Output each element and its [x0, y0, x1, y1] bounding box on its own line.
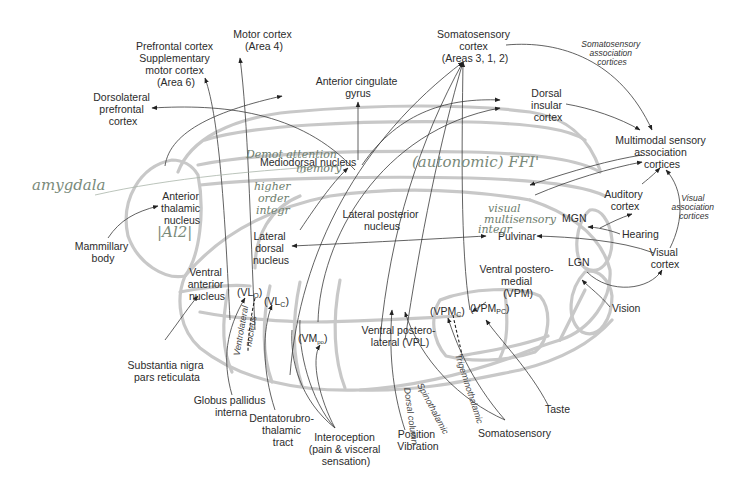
label-hearing: Hearing [622, 228, 659, 240]
label-dorsolateral-prefrontal: Dorsolateral prefrontal cortex [93, 91, 153, 127]
label-anterior-cingulate: Anterior cingulate gyrus [316, 75, 401, 99]
label-interoception: Interoception (pain & visceral sensation… [309, 431, 384, 467]
label-ventrolateral-nucleus: Ventrolateral nucleus [232, 302, 261, 358]
label-prefrontal-cortex: Prefrontal cortex Supplementary motor co… [136, 40, 216, 88]
label-vpmpc: (VPMPC) [470, 302, 509, 315]
label-vmpo: (VMpo) [298, 332, 327, 345]
label-vpmc: (VPMC) [430, 305, 465, 318]
label-dentatorubrothalamic: Dentatorubro- thalamic tract [249, 412, 317, 448]
label-trigeminothalamic: Trigeminothalamic [453, 353, 485, 426]
thalamus-diagram: Prefrontal cortex Supplementary motor co… [0, 0, 746, 482]
label-substantia-nigra: Substantia nigra pars reticulata [128, 359, 207, 383]
label-taste: Taste [545, 403, 570, 415]
label-ventral-anterior: Ventral anterior nucleus [188, 266, 227, 302]
handwritten-al2: |Al2| [157, 223, 192, 241]
label-dorsal-insular: Dorsal insular cortex [531, 87, 565, 123]
label-mammillary-body: Mammillary body [75, 240, 132, 264]
handwritten-higher-order: higher order integr [254, 180, 294, 217]
label-vpm: Ventral postero- medial (VPM) [479, 263, 556, 299]
label-visual-association: Visual association cortices [672, 193, 717, 221]
handwritten-amygdala: amygdala [32, 176, 106, 194]
label-lgn: LGN [568, 256, 590, 268]
label-somatosensory-input: Somatosensory [478, 427, 552, 439]
handwritten-autonomic: (autonomic) FFI' [412, 153, 539, 171]
label-somatosensory-cortex: Somatosensory cortex (Areas 3, 1, 2) [437, 28, 513, 64]
label-anterior-thalamic: Anterior thalamic nucleus [161, 190, 203, 226]
thalamus-outline [126, 106, 612, 390]
label-vlc: (VLC) [264, 295, 289, 308]
label-somatosensory-association: Somatosensory association cortices [581, 39, 642, 67]
label-lateral-posterior: Lateral posterior nucleus [343, 208, 422, 232]
label-motor-cortex: Motor cortex (Area 4) [233, 28, 294, 52]
label-mgn: MGN [562, 212, 587, 224]
label-visual-cortex: Visual cortex [649, 246, 680, 270]
label-vpl: Ventral postero- lateral (VPL) [361, 324, 438, 348]
label-vlo: (VLO) [237, 286, 262, 299]
label-vision: Vision [612, 302, 641, 314]
label-lateral-dorsal: Lateral dorsal nucleus [253, 230, 289, 266]
label-auditory-cortex: Auditory cortex [604, 188, 645, 212]
